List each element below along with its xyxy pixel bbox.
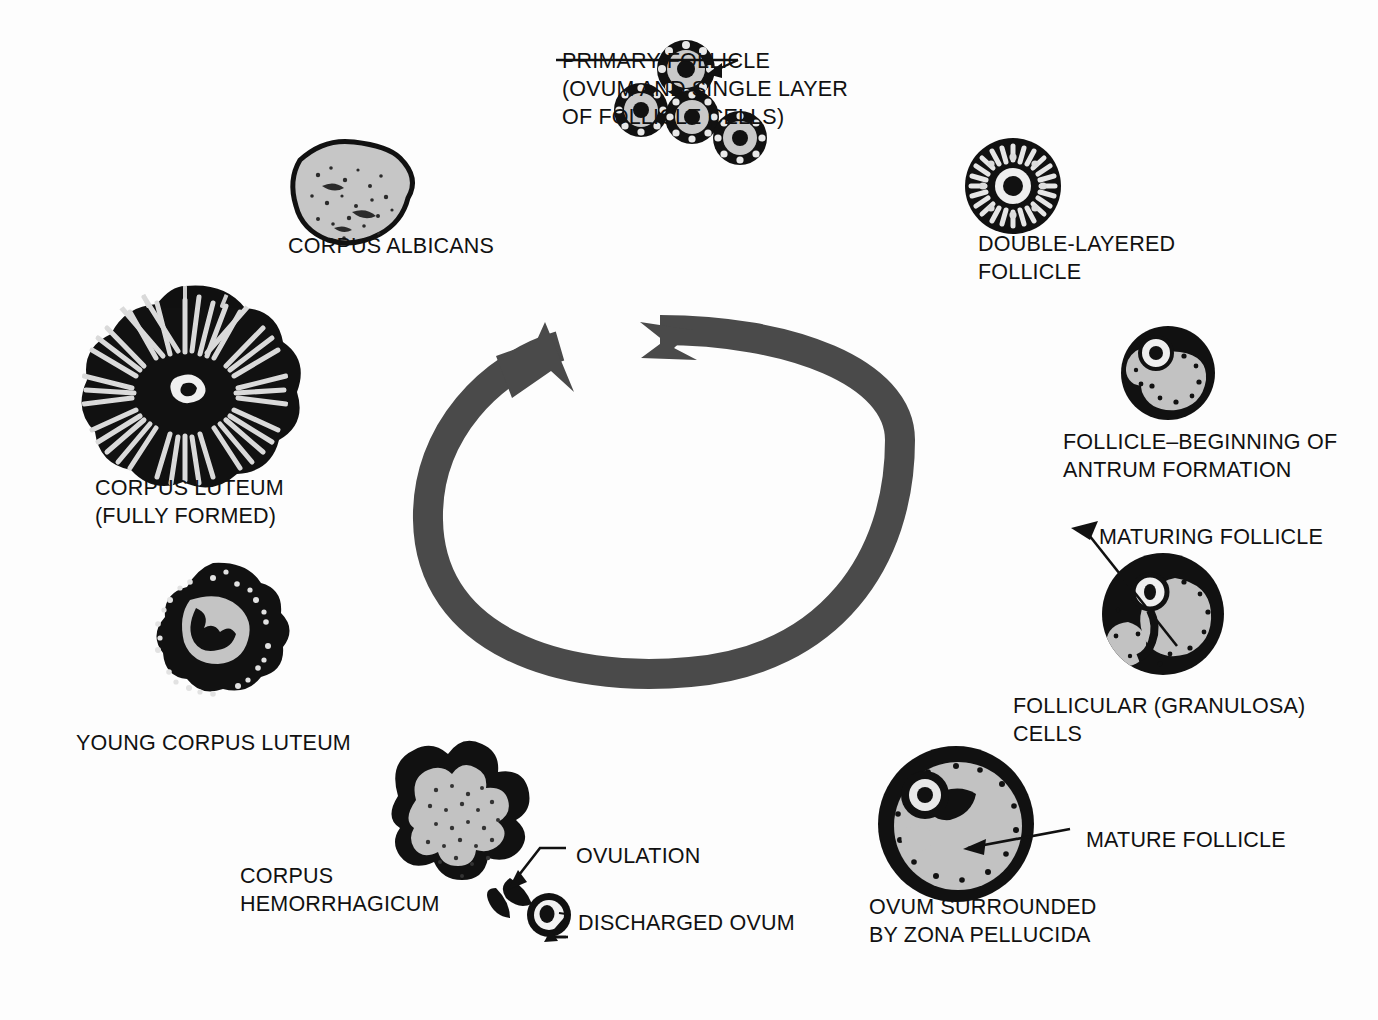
label-line: FOLLICULAR (GRANULOSA) [1013,694,1305,718]
label-double-layered-follicle: DOUBLE-LAYEREDFOLLICLE [978,230,1175,286]
label-discharged-ovum: DISCHARGED OVUM [578,909,795,937]
label-line: FOLLICLE–BEGINNING OF [1063,430,1337,454]
label-mature-follicle: MATURE FOLLICLE [1086,826,1286,854]
label-line: OVUM SURROUNDED [869,895,1097,919]
label-line: HEMORRHAGICUM [240,892,440,916]
label-line: DOUBLE-LAYERED [978,232,1175,256]
label-line: (FULLY FORMED) [95,504,276,528]
label-line: CELLS [1013,722,1082,746]
double-layered-follicle [965,138,1061,234]
label-line: CORPUS [240,864,333,888]
label-line: PRIMARY FOLLICLE [562,49,770,73]
label-line: MATURING FOLLICLE [1099,525,1323,549]
label-line: CORPUS LUTEUM [95,476,284,500]
young-corpus-luteum [155,563,290,697]
label-line: OF FOLLICLE CELLS) [562,105,784,129]
label-maturing-follicle: MATURING FOLLICLE [1099,523,1323,551]
corpus-albicans [293,141,413,245]
label-corpus-luteum-fully-formed: CORPUS LUTEUM(FULLY FORMED) [95,474,284,530]
label-line: ANTRUM FORMATION [1063,458,1292,482]
label-line: BY ZONA PELLUCIDA [869,923,1091,947]
label-line: MATURE FOLLICLE [1086,828,1286,852]
discharged-ovum [527,893,571,942]
label-corpus-albicans: CORPUS ALBICANS [288,232,494,260]
corpus-luteum-fully-formed [82,250,301,487]
label-young-corpus-luteum: YOUNG CORPUS LUTEUM [76,729,351,757]
label-line: (OVUM AND SINGLE LAYER [562,77,848,101]
label-line: YOUNG CORPUS LUTEUM [76,731,351,755]
mature-follicle [878,746,1070,902]
ovarian-cycle-diagram: PRIMARY FOLLICLE(OVUM AND SINGLE LAYEROF… [0,0,1378,1020]
label-line: OVULATION [576,844,700,868]
label-line: FOLLICLE [978,260,1081,284]
label-ovum-zona-pellucida: OVUM SURROUNDEDBY ZONA PELLUCIDA [869,893,1097,949]
cycle-arrow [428,322,900,674]
label-line: CORPUS ALBICANS [288,234,494,258]
label-follicle-antrum-formation: FOLLICLE–BEGINNING OFANTRUM FORMATION [1063,428,1337,484]
follicle-antrum-formation [1121,326,1215,420]
label-ovulation: OVULATION [576,842,700,870]
label-corpus-hemorrhagicum: CORPUSHEMORRHAGICUM [240,862,440,918]
label-follicular-granulosa-cells: FOLLICULAR (GRANULOSA)CELLS [1013,692,1305,748]
label-line: DISCHARGED OVUM [578,911,795,935]
label-primary-follicle: PRIMARY FOLLICLE(OVUM AND SINGLE LAYEROF… [562,47,848,131]
